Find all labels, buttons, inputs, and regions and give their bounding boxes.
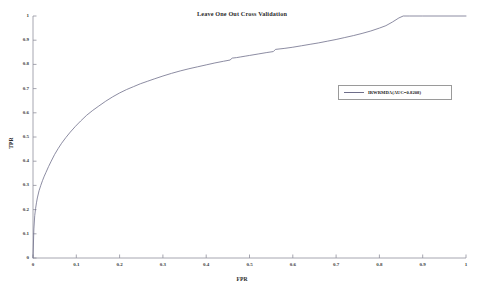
x-axis-label: FPR (0, 276, 484, 282)
y-tick-label: 0.7 (13, 86, 29, 91)
legend-entry-label: IRWRMDA(AUC=0.8208) (368, 90, 421, 95)
y-tick-label: 0.4 (13, 158, 29, 163)
x-tick-label: 0.9 (413, 262, 433, 267)
x-tick-label: 0.7 (326, 262, 346, 267)
y-axis-label: TPR (8, 123, 14, 163)
x-tick-label: 0 (23, 262, 43, 267)
x-tick-label: 1 (456, 262, 476, 267)
y-tick-label: 0 (13, 255, 29, 260)
x-tick-label: 0.5 (240, 262, 260, 267)
y-tick-label: 0.1 (13, 231, 29, 236)
roc-curve-series (33, 16, 466, 258)
y-tick-label: 0.5 (13, 134, 29, 139)
x-tick-label: 0.8 (369, 262, 389, 267)
x-tick-label: 0.6 (283, 262, 303, 267)
y-tick-label: 0.3 (13, 182, 29, 187)
legend-entry: IRWRMDA(AUC=0.8208) (339, 86, 451, 99)
y-axis-ticks (33, 16, 37, 258)
x-tick-label: 0.3 (153, 262, 173, 267)
axis-lines (33, 16, 466, 258)
plot-area (0, 0, 484, 294)
x-tick-label: 0.2 (110, 262, 130, 267)
y-tick-label: 1 (13, 13, 29, 18)
x-tick-label: 0.4 (196, 262, 216, 267)
roc-chart-figure: Leave One Out Cross Validation FPR TPR 0… (0, 0, 484, 294)
y-tick-label: 0.2 (13, 207, 29, 212)
chart-legend: IRWRMDA(AUC=0.8208) (338, 85, 452, 100)
y-tick-label: 0.8 (13, 61, 29, 66)
x-tick-label: 0.1 (66, 262, 86, 267)
x-axis-ticks (33, 255, 466, 259)
roc-curve-line (33, 16, 466, 258)
legend-line-swatch (344, 92, 364, 93)
y-tick-label: 0.9 (13, 37, 29, 42)
y-tick-label: 0.6 (13, 110, 29, 115)
